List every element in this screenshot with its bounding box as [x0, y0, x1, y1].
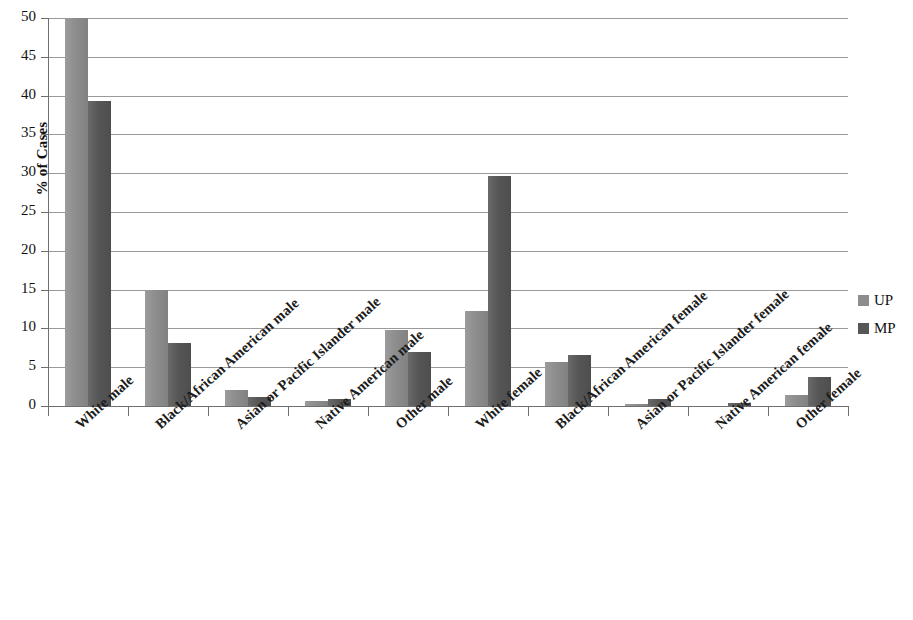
bar-up	[545, 362, 568, 406]
y-tick-label: 30	[4, 163, 36, 180]
bar-mp	[488, 176, 511, 406]
y-tick-label: 15	[4, 280, 36, 297]
bar-group	[545, 18, 591, 406]
y-tick-label: 40	[4, 86, 36, 103]
bar-up	[145, 290, 168, 406]
bar-up	[225, 390, 248, 406]
legend-item[interactable]: MP	[858, 314, 913, 342]
y-tick-label: 10	[4, 318, 36, 335]
legend: UPMP	[858, 286, 913, 342]
y-tick-label: 25	[4, 202, 36, 219]
legend-swatch-icon	[858, 323, 869, 334]
y-tick-label: 5	[4, 357, 36, 374]
bar-group	[145, 18, 191, 406]
legend-label: UP	[874, 292, 893, 309]
y-tick-label: 35	[4, 124, 36, 141]
legend-label: MP	[874, 320, 896, 337]
bar-group	[65, 18, 111, 406]
x-axis-labels: White maleBlack/African American maleAsi…	[0, 406, 913, 620]
y-tick-label: 20	[4, 241, 36, 258]
bar-up	[785, 395, 808, 406]
y-tick-label: 45	[4, 47, 36, 64]
legend-item[interactable]: UP	[858, 286, 913, 314]
y-tick-label: 50	[4, 8, 36, 25]
bar-up	[465, 311, 488, 406]
bar-group	[465, 18, 511, 406]
bar-chart: % of Cases 05101520253035404550 White ma…	[0, 0, 913, 620]
bar-mp	[88, 101, 111, 406]
bar-up	[65, 18, 88, 406]
legend-swatch-icon	[858, 295, 869, 306]
